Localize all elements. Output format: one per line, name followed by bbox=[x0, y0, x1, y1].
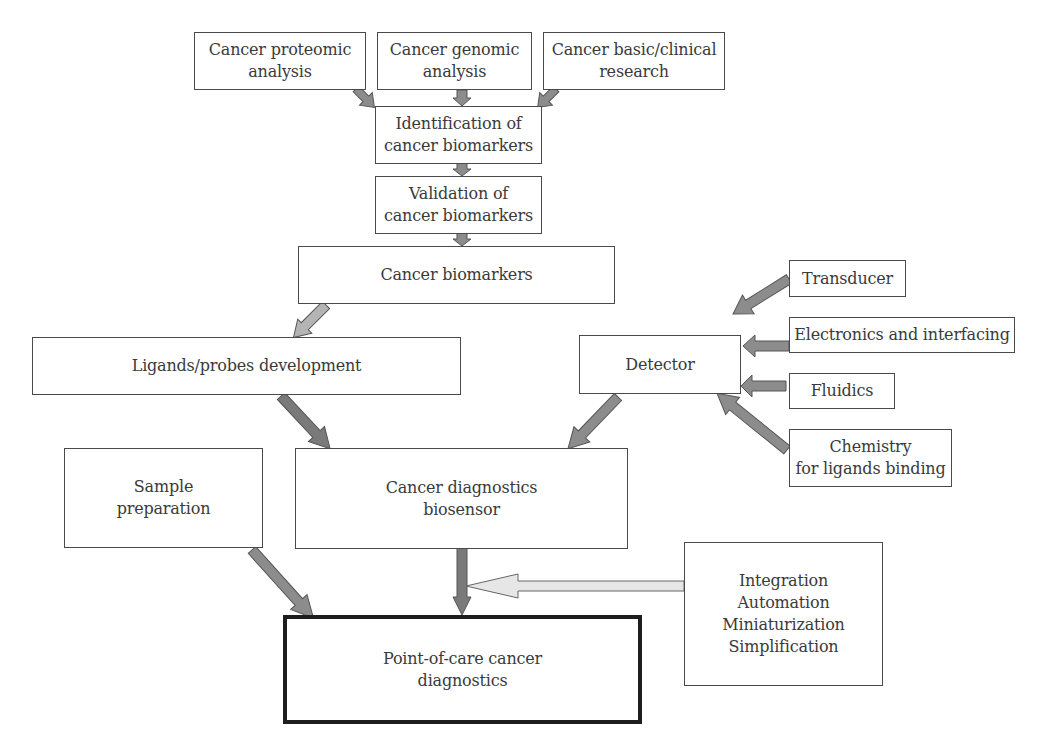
arrow-transducer-to-detector bbox=[727, 270, 795, 324]
node-identification-line-1: Identification of bbox=[395, 113, 521, 135]
node-detector: Detector bbox=[579, 335, 741, 394]
node-electronics-line-1: Electronics and interfacing bbox=[794, 324, 1009, 346]
flow-diagram: Cancer proteomic analysis Cancer genomic… bbox=[0, 0, 1042, 753]
node-validation: Validation of cancer biomarkers bbox=[375, 176, 542, 234]
node-validation-line-2: cancer biomarkers bbox=[384, 205, 533, 227]
node-chemistry-line-2: for ligands binding bbox=[796, 458, 946, 480]
node-identification-line-2: cancer biomarkers bbox=[384, 135, 533, 157]
node-clinical-line-2: research bbox=[599, 61, 669, 83]
arrow-identification-to-validation bbox=[453, 163, 471, 176]
node-integration-line-3: Miniaturization bbox=[722, 614, 844, 636]
node-identification: Identification of cancer biomarkers bbox=[375, 106, 542, 164]
node-validation-line-1: Validation of bbox=[409, 183, 508, 205]
node-proteomic-line-1: Cancer proteomic bbox=[209, 39, 351, 61]
arrow-detector-to-biosensor bbox=[560, 389, 626, 456]
node-proteomic: Cancer proteomic analysis bbox=[194, 32, 366, 90]
node-integration-line-2: Automation bbox=[737, 592, 829, 614]
node-integration: Integration Automation Miniaturization S… bbox=[684, 542, 883, 686]
node-poc: Point-of-care cancer diagnostics bbox=[283, 615, 642, 724]
node-biosensor: Cancer diagnostics biosensor bbox=[295, 448, 628, 549]
arrow-sample-to-poc bbox=[244, 543, 322, 626]
arrow-electronics-to-detector bbox=[743, 335, 789, 357]
node-genomic: Cancer genomic analysis bbox=[377, 32, 532, 90]
node-electronics: Electronics and interfacing bbox=[789, 317, 1015, 353]
node-clinical-line-1: Cancer basic/clinical bbox=[552, 39, 717, 61]
node-biomarkers-line-1: Cancer biomarkers bbox=[380, 264, 532, 286]
node-poc-line-1: Point-of-care cancer bbox=[383, 648, 542, 670]
node-transducer: Transducer bbox=[789, 260, 906, 297]
node-genomic-line-1: Cancer genomic bbox=[390, 39, 519, 61]
node-transducer-line-1: Transducer bbox=[802, 268, 893, 290]
node-biosensor-line-1: Cancer diagnostics bbox=[386, 477, 538, 499]
node-integration-line-4: Simplification bbox=[729, 636, 839, 658]
node-chemistry: Chemistry for ligands binding bbox=[789, 429, 952, 487]
arrow-validation-to-biomarkers bbox=[453, 233, 471, 246]
node-fluidics-line-1: Fluidics bbox=[811, 380, 874, 402]
node-clinical: Cancer basic/clinical research bbox=[543, 32, 725, 90]
node-ligands-line-1: Ligands/probes development bbox=[132, 355, 362, 377]
node-poc-line-2: diagnostics bbox=[418, 670, 508, 692]
node-chemistry-line-1: Chemistry bbox=[830, 436, 912, 458]
node-biosensor-line-2: biosensor bbox=[423, 499, 500, 521]
node-detector-line-1: Detector bbox=[625, 354, 694, 376]
node-proteomic-line-2: analysis bbox=[248, 61, 311, 83]
arrow-integration-to-link bbox=[466, 574, 684, 598]
node-ligands: Ligands/probes development bbox=[32, 337, 461, 395]
arrow-biosensor-to-poc bbox=[453, 548, 471, 615]
node-integration-line-1: Integration bbox=[739, 570, 828, 592]
node-biomarkers: Cancer biomarkers bbox=[298, 246, 615, 304]
arrow-fluidics-to-detector bbox=[741, 375, 786, 397]
node-sample-line-2: preparation bbox=[117, 498, 211, 520]
node-fluidics: Fluidics bbox=[789, 373, 895, 409]
arrow-genomic-to-identification bbox=[453, 90, 471, 106]
node-genomic-line-2: analysis bbox=[423, 61, 486, 83]
node-sample-line-1: Sample bbox=[134, 476, 193, 498]
node-sample: Sample preparation bbox=[64, 448, 263, 548]
arrow-ligands-to-biosensor bbox=[273, 388, 338, 456]
